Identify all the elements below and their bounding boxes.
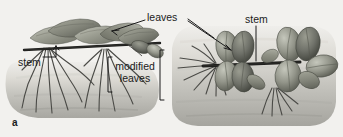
label-stem-left: stem xyxy=(18,57,41,68)
figure-panel: leaves stem stem modified leaves a xyxy=(0,0,343,137)
label-modified-leaves-line2: leaves xyxy=(120,72,150,84)
panel-label: a xyxy=(12,117,18,128)
label-stem-right: stem xyxy=(245,14,268,25)
label-modified-leaves-line1: modified xyxy=(115,60,155,72)
label-modified-leaves: modified leaves xyxy=(113,61,157,84)
label-leaves: leaves xyxy=(147,12,177,23)
